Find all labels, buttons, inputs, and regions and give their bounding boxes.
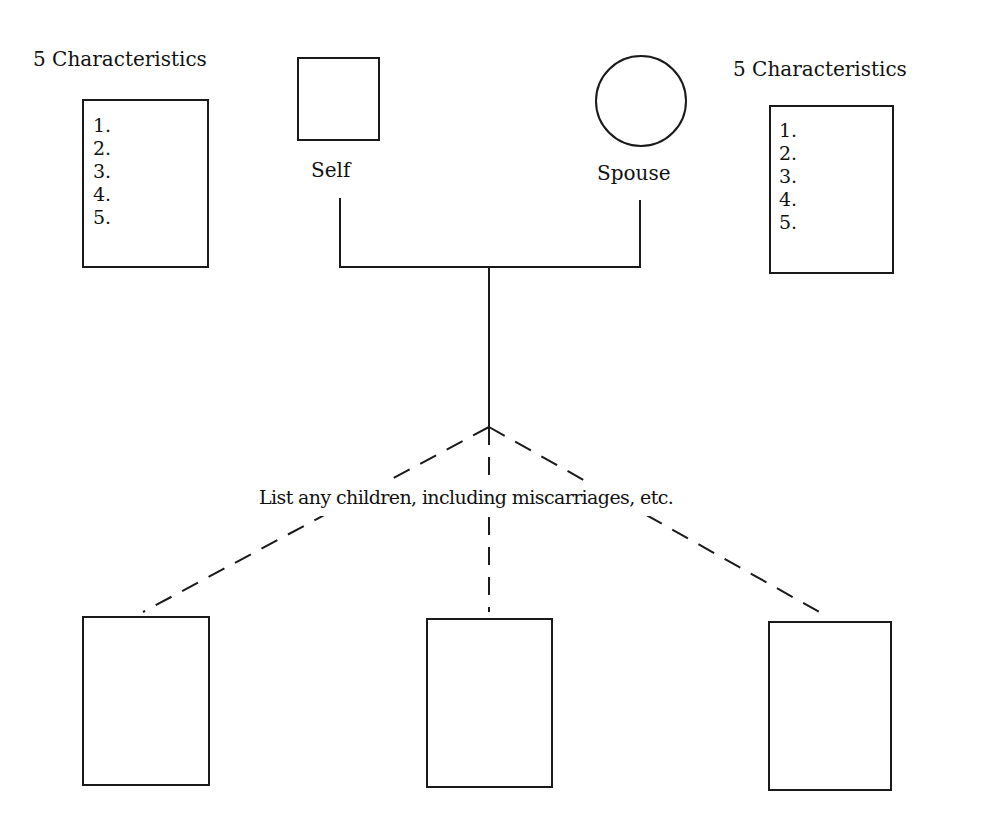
self-label: Self — [311, 158, 350, 182]
right-characteristics-heading: 5 Characteristics — [733, 57, 907, 81]
right-characteristic-5: 5. — [779, 211, 797, 234]
marriage-connector-line — [340, 198, 640, 267]
child-line-right — [489, 427, 823, 614]
right-characteristic-4: 4. — [779, 188, 797, 211]
left-characteristic-3: 3. — [93, 160, 111, 183]
right-characteristic-3: 3. — [779, 165, 797, 188]
left-characteristics-list: 1. 2. 3. 4. 5. — [93, 114, 111, 229]
right-characteristic-2: 2. — [779, 142, 797, 165]
diagram-shapes — [0, 0, 983, 833]
right-characteristics-list: 1. 2. 3. 4. 5. — [779, 119, 797, 234]
right-characteristic-1: 1. — [779, 119, 797, 142]
child-box-2 — [427, 619, 552, 787]
left-characteristic-1: 1. — [93, 114, 111, 137]
left-characteristic-4: 4. — [93, 183, 111, 206]
child-line-left — [143, 427, 489, 612]
child-box-1 — [83, 617, 209, 785]
child-box-3 — [769, 622, 891, 790]
children-caption: List any children, including miscarriage… — [259, 486, 673, 508]
left-characteristics-heading: 5 Characteristics — [33, 47, 207, 71]
spouse-circle-symbol — [596, 56, 686, 146]
self-square-symbol — [298, 58, 379, 140]
left-characteristic-5: 5. — [93, 206, 111, 229]
spouse-label: Spouse — [597, 161, 671, 185]
left-characteristic-2: 2. — [93, 137, 111, 160]
genogram-diagram: 5 Characteristics 1. 2. 3. 4. 5. Self Sp… — [0, 0, 983, 833]
